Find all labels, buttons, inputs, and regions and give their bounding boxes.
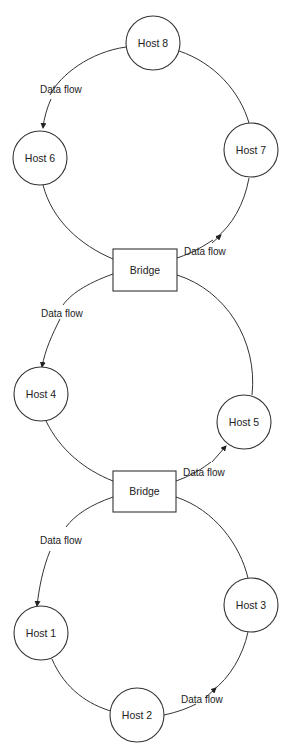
link-host1-host2 [52, 659, 111, 711]
host-label: Host 7 [236, 144, 267, 156]
data-flow-label-bottom-left: Data flow [40, 535, 82, 546]
data-flow-arrowhead-mid-right [212, 446, 226, 462]
diagram-canvas: Host 8 Host 6 Host 7 Host 4 Host 5 Host … [0, 0, 287, 756]
host-label: Host 8 [138, 37, 169, 49]
host-label: Host 2 [122, 709, 153, 721]
host-label: Host 3 [236, 599, 267, 611]
bridge-label: Bridge [129, 485, 160, 497]
data-flow-label-mid-left: Data flow [41, 308, 83, 319]
data-flow-arrow-mid-left [42, 319, 60, 367]
bridge-label: Bridge [130, 264, 161, 276]
data-flow-arrow-top-right [216, 178, 249, 238]
data-flow-label-top-left: Data flow [40, 84, 82, 95]
data-flow-label-top-right: Data flow [184, 246, 226, 257]
host-6-node[interactable]: Host 6 [13, 131, 67, 185]
link-bridge1-host4 [63, 274, 113, 305]
network-diagram: Host 8 Host 6 Host 7 Host 4 Host 5 Host … [0, 0, 287, 756]
host-label: Host 6 [25, 152, 56, 164]
host-7-node[interactable]: Host 7 [224, 123, 278, 177]
bridge-2-node[interactable]: Bridge [113, 471, 176, 512]
data-flow-arrow-top-left [43, 99, 51, 128]
link-host6-bridge1 [43, 185, 113, 259]
data-flow-arrow-bottom-left [37, 551, 50, 606]
link-host2-host3 [164, 704, 196, 715]
host-2-node[interactable]: Host 2 [110, 688, 164, 742]
link-host8-host7 [179, 51, 249, 123]
host-3-node[interactable]: Host 3 [224, 578, 278, 632]
host-8-node[interactable]: Host 8 [126, 16, 180, 70]
link-bridge2-host3 [176, 497, 248, 578]
data-flow-label-bottom-right: Data flow [181, 694, 223, 705]
data-flow-arrowhead-top-right [212, 235, 221, 243]
host-label: Host 5 [229, 416, 260, 428]
link-bridge1-host5 [177, 275, 253, 395]
host-1-node[interactable]: Host 1 [14, 606, 68, 660]
host-label: Host 4 [26, 388, 57, 400]
link-host4-bridge2 [46, 421, 113, 481]
host-5-node[interactable]: Host 5 [217, 395, 271, 449]
data-flow-arrow-bottom-right [212, 632, 248, 691]
link-bridge2-host1 [66, 497, 113, 527]
host-label: Host 1 [26, 627, 57, 639]
data-flow-label-mid-right: Data flow [183, 467, 225, 478]
host-4-node[interactable]: Host 4 [14, 367, 68, 421]
bridge-1-node[interactable]: Bridge [113, 249, 177, 291]
